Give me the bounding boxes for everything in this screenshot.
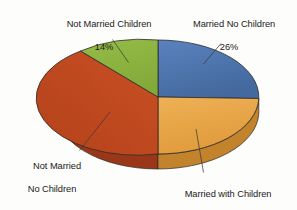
pie-chart-graphic (0, 0, 297, 210)
pie-slice-married-with-children (158, 97, 259, 154)
pie-top-faces (36, 39, 259, 155)
pie-chart-figure: Married No Children 26% Not Married Chil… (0, 0, 297, 210)
pie-slice-married-no-children (158, 40, 259, 99)
